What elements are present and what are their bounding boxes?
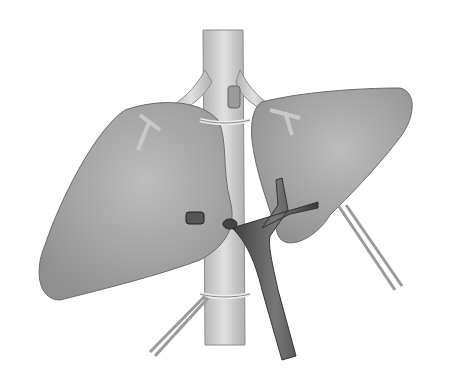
vessel-stump-cava [223, 219, 237, 229]
vessel-stump [186, 212, 204, 224]
illustration-svg [0, 0, 461, 371]
liver-anatomy-illustration [0, 0, 461, 371]
right-liver-lobe [39, 103, 232, 300]
